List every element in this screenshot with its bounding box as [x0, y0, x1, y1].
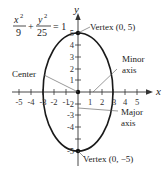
- x-tick-label: -2: [50, 97, 57, 107]
- equation-y-denominator: 25: [37, 27, 47, 38]
- vertex-bottom-label: Vertex (0, −5): [83, 154, 133, 164]
- y-axis: [75, 13, 81, 166]
- equation-x-denominator: 9: [16, 27, 21, 38]
- x-tick-label: 1: [88, 97, 92, 107]
- x-tick-label: 2: [100, 97, 104, 107]
- vertex-top-label: Vertex (0, 5): [90, 22, 135, 32]
- minor-axis-label-line2: axis: [122, 65, 137, 75]
- x-axis-arrow-icon: [146, 89, 153, 94]
- ellipse-diagram: -5 -4 -3 -2 -1 1 2 3 4 5 1 2 3 4 5 -2 -3…: [0, 0, 165, 172]
- y-tick-label: 4: [70, 40, 75, 50]
- y-tick-label: 1: [70, 75, 74, 85]
- y-axis-label: y: [73, 3, 79, 15]
- x-axis: [12, 89, 153, 95]
- y-tick-label: 2: [70, 64, 74, 74]
- x-tick-label: -4: [27, 97, 35, 107]
- minor-axis-label-line1: Minor: [122, 54, 145, 64]
- vertex-top-leader: [78, 27, 90, 33]
- y-tick-label: 5: [70, 28, 74, 38]
- y-tick-label: -3: [67, 110, 74, 120]
- equation-y-numerator: y: [37, 14, 43, 25]
- x-tick-label: 4: [123, 97, 128, 107]
- major-axis-label-line2: axis: [121, 118, 136, 128]
- y-tick-label: 3: [70, 52, 74, 62]
- x-tick-label: 3: [112, 97, 116, 107]
- y-tick-label: -4: [67, 122, 75, 132]
- y-tick-label: -2: [67, 99, 74, 109]
- x-axis-label: x: [155, 85, 161, 97]
- equation-y-exponent: 2: [44, 12, 47, 19]
- equation-x-exponent: 2: [20, 12, 23, 19]
- center-label: Center: [12, 69, 36, 79]
- x-tick-label: 5: [135, 97, 139, 107]
- equation: x 2 9 + y 2 25 = 1: [13, 12, 66, 38]
- major-axis-label-line1: Major: [121, 107, 143, 117]
- equation-x-numerator: x: [13, 14, 19, 25]
- x-tick-label: -3: [39, 97, 46, 107]
- equation-rhs: = 1: [53, 21, 66, 32]
- x-tick-label: -5: [15, 97, 22, 107]
- y-tick-label: -5: [67, 146, 74, 156]
- equation-plus: +: [28, 21, 34, 32]
